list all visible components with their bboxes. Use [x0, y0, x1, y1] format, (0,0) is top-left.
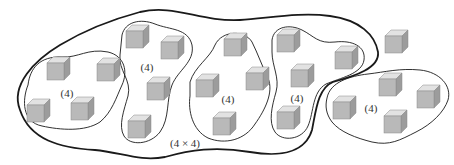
group-4-cube-1: [277, 29, 300, 52]
group-1-cube-2: [97, 58, 120, 81]
group-1-cube-1: [47, 57, 70, 80]
group-1-count-label: (4): [61, 87, 74, 100]
set-diagram: (4)(4)(4)(4)(4)(4 × 4): [0, 0, 454, 165]
group-2-cube-1: [126, 25, 149, 48]
group-3-cube-2: [196, 74, 219, 97]
group-5-cube-2: [417, 85, 440, 108]
group-2-cube-4: [128, 115, 151, 138]
group-4-cube-4: [277, 106, 300, 129]
group-5-count-label: (4): [365, 102, 378, 115]
outer-group-count-label: (4 × 4): [170, 137, 200, 150]
lone-cube: [385, 30, 408, 53]
group-4-cube-2: [335, 46, 358, 69]
group-2-cube-2: [161, 36, 184, 59]
group-5-cube-1: [379, 73, 402, 96]
group-5-cube-4: [384, 110, 407, 133]
group-4-cube-3: [291, 64, 314, 87]
group-3-cube-3: [246, 67, 269, 90]
group-3-count-label: (4): [222, 93, 235, 106]
cubes-layer: [27, 25, 440, 138]
group-3-cube-1: [224, 33, 247, 56]
group-4-count-label: (4): [291, 92, 304, 105]
group-2-count-label: (4): [141, 61, 154, 74]
group-1-cube-3: [27, 99, 50, 122]
group-2-cube-3: [147, 77, 170, 100]
group-1-cube-4: [71, 97, 94, 120]
group-5-cube-3: [333, 96, 356, 119]
group-3-cube-4: [213, 112, 236, 135]
